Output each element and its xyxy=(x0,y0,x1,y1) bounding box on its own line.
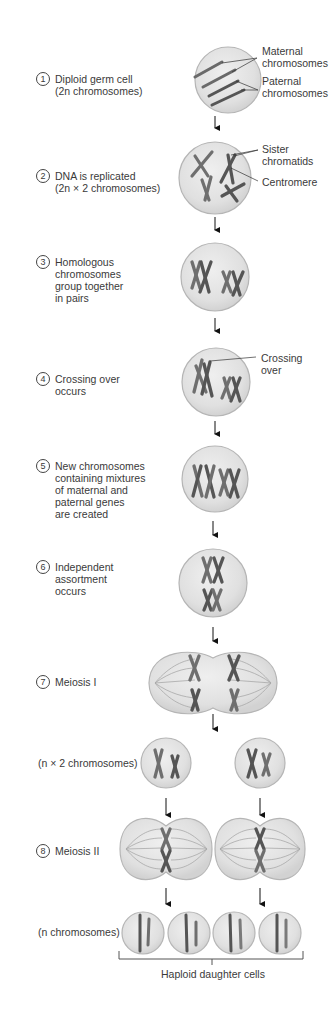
step-5: 5 New chromosomes containing mixtures of… xyxy=(38,460,145,520)
step-text: Crossing over occurs xyxy=(38,373,120,397)
step-1: 1 Diploid germ cell (2n chromosomes) xyxy=(38,73,143,97)
haploid-cell-2 xyxy=(168,912,210,954)
cell-crossing-over xyxy=(182,348,256,416)
step-number: 1 xyxy=(36,72,50,86)
step-4: 4 Crossing over occurs xyxy=(38,373,120,397)
haploid-cell-1 xyxy=(122,912,164,954)
step-number: 3 xyxy=(36,255,50,269)
step-7: 7 Meiosis I xyxy=(38,676,96,688)
cell-homologous-pairs xyxy=(181,243,249,311)
step-number: 5 xyxy=(36,459,50,473)
callout-paternal: Paternal chromosomes xyxy=(262,75,328,99)
step-text: New chromosomes containing mixtures of m… xyxy=(38,460,145,520)
step-6: 6 Independent assortment occurs xyxy=(38,561,113,597)
cell-recombined xyxy=(182,446,248,512)
step-number: 6 xyxy=(36,560,50,574)
cell-diploid-germ xyxy=(195,47,261,113)
step-text: DNA is replicated (2n × 2 chromosomes) xyxy=(38,170,160,194)
cell-meiosis-1 xyxy=(149,652,277,714)
step-number: 7 xyxy=(36,675,50,689)
callout-centromere: Centromere xyxy=(262,176,317,188)
label-n-chromosomes: (n chromosomes) xyxy=(38,926,120,938)
cell-independent-assortment xyxy=(179,549,247,617)
label-n-x2-chromosomes: (n × 2 chromosomes) xyxy=(38,757,138,769)
meiosis-diagram: 1 Diploid germ cell (2n chromosomes) 2 D… xyxy=(0,0,333,1022)
step-text: Diploid germ cell (2n chromosomes) xyxy=(38,73,143,97)
callout-crossing-over: Crossing over xyxy=(261,352,302,376)
cell-replicated xyxy=(179,142,258,214)
callout-maternal: Maternal chromosomes xyxy=(262,45,328,69)
step-2: 2 DNA is replicated (2n × 2 chromosomes) xyxy=(38,170,160,194)
label-haploid-daughter-cells: Haploid daughter cells xyxy=(161,968,265,980)
step-number: 8 xyxy=(36,844,50,858)
callout-sister-chromatids: Sister chromatids xyxy=(262,143,313,167)
haploid-cell-3 xyxy=(213,912,255,954)
cell-secondary-right xyxy=(235,738,285,788)
cell-meiosis-2-left xyxy=(120,818,212,879)
step-3: 3 Homologous chromosomes group together … xyxy=(38,256,123,304)
haploid-cell-4 xyxy=(259,912,301,954)
cell-meiosis-2-right xyxy=(215,818,305,879)
step-number: 4 xyxy=(36,372,50,386)
step-text: Homologous chromosomes group together in… xyxy=(38,256,123,304)
step-8: 8 Meiosis II xyxy=(38,845,99,857)
cell-secondary-left xyxy=(141,738,191,788)
step-number: 2 xyxy=(36,169,50,183)
